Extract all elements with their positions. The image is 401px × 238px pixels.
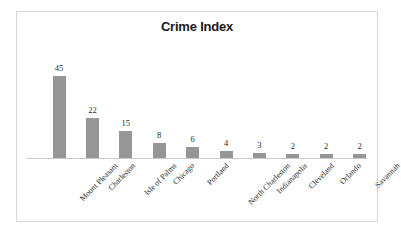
bar bbox=[353, 154, 366, 158]
bar bbox=[320, 154, 333, 158]
chart-frame: Crime Index 4522158643222 Mount Pleasant… bbox=[16, 11, 378, 222]
chart-title: Crime Index bbox=[17, 19, 377, 34]
bar bbox=[253, 153, 266, 159]
bar bbox=[220, 151, 233, 158]
bar-value-label: 4 bbox=[224, 139, 228, 148]
bar-value-label: 2 bbox=[357, 142, 361, 151]
plot-area bbox=[29, 39, 367, 159]
category-label: Orlando bbox=[339, 162, 363, 186]
category-label: Portland bbox=[206, 162, 231, 187]
category-label: Cleveland bbox=[307, 162, 336, 191]
bar bbox=[153, 143, 166, 158]
axis-baseline bbox=[27, 158, 367, 159]
bar bbox=[286, 154, 299, 158]
bar bbox=[119, 131, 132, 159]
bar-value-label: 45 bbox=[55, 64, 64, 73]
bar-value-label: 6 bbox=[190, 135, 194, 144]
bar-value-label: 8 bbox=[157, 131, 161, 140]
bar-value-label: 2 bbox=[291, 142, 295, 151]
bar-value-label: 22 bbox=[88, 106, 97, 115]
bar-value-label: 3 bbox=[257, 141, 261, 150]
category-label: Savannah bbox=[374, 162, 401, 190]
bar bbox=[186, 147, 199, 158]
bar bbox=[86, 118, 99, 158]
bar-value-label: 2 bbox=[324, 142, 328, 151]
bar-value-label: 15 bbox=[122, 119, 131, 128]
bar bbox=[53, 76, 66, 159]
